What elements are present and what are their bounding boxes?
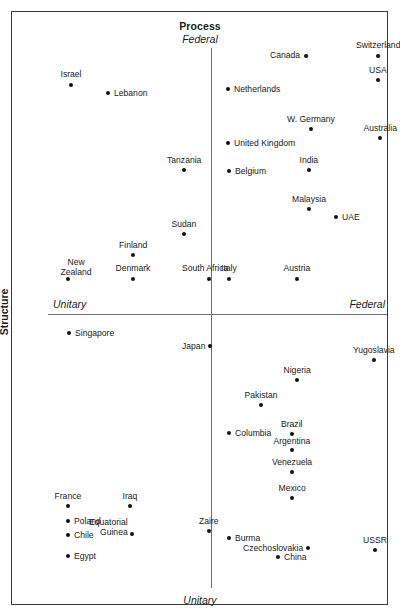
data-point-marker xyxy=(376,78,380,82)
data-point-label: Nigeria xyxy=(284,366,311,376)
data-point-label: Switzerland xyxy=(356,41,400,51)
data-point-label: Denmark xyxy=(116,264,151,274)
data-point-marker xyxy=(276,555,280,559)
data-point-marker xyxy=(304,54,308,58)
data-point-label: Argentina xyxy=(274,437,311,447)
data-point-marker xyxy=(295,277,299,281)
data-point-marker xyxy=(227,431,231,435)
structure-federal-label: Federal xyxy=(347,298,385,310)
data-point-marker xyxy=(227,536,231,540)
data-point-label: Egypt xyxy=(74,552,96,562)
data-point-label: India xyxy=(300,156,319,166)
structure-unitary-label: Unitary xyxy=(53,298,86,310)
data-point-label: Malaysia xyxy=(292,195,326,205)
data-point-marker xyxy=(290,470,294,474)
data-point-label: Iraq xyxy=(123,492,138,502)
data-point-marker xyxy=(69,83,73,87)
data-point-label: United Kingdom xyxy=(234,139,295,149)
data-point-marker xyxy=(378,136,382,140)
data-point-label: Canada xyxy=(270,51,300,61)
data-point-marker xyxy=(182,232,186,236)
data-point-marker xyxy=(207,277,211,281)
data-point-label: Sudan xyxy=(172,220,197,230)
data-point-marker xyxy=(290,448,294,452)
data-point-marker xyxy=(295,378,299,382)
data-point-marker xyxy=(376,54,380,58)
process-axis-title: Process xyxy=(0,20,400,32)
data-point-label: Italy xyxy=(221,264,237,274)
data-point-label: Netherlands xyxy=(234,85,280,95)
data-point-label: Yugoslavia xyxy=(353,346,395,356)
structure-axis-title: Structure xyxy=(0,272,10,352)
data-point-label: Japan xyxy=(182,342,205,352)
data-point-marker xyxy=(128,504,132,508)
data-point-marker xyxy=(307,207,311,211)
data-point-marker xyxy=(106,91,110,95)
data-point-label: UAE xyxy=(342,213,360,223)
data-point-marker xyxy=(66,554,70,558)
data-point-label: Pakistan xyxy=(245,391,278,401)
data-point-marker xyxy=(227,277,231,281)
data-point-marker xyxy=(182,168,186,172)
data-point-label: Mexico xyxy=(279,484,306,494)
data-point-label: W. Germany xyxy=(287,115,335,125)
data-point-marker xyxy=(259,403,263,407)
data-point-label: Lebanon xyxy=(114,89,147,99)
data-point-marker xyxy=(66,504,70,508)
data-point-label: Columbia xyxy=(235,429,271,439)
data-point-marker xyxy=(307,168,311,172)
data-point-marker xyxy=(66,519,70,523)
data-point-label: Austria xyxy=(284,264,311,274)
data-point-label: New Zealand xyxy=(61,258,92,277)
data-point-marker xyxy=(66,533,70,537)
data-point-marker xyxy=(66,277,70,281)
data-point-marker xyxy=(207,529,211,533)
process-federal-label: Federal xyxy=(0,33,400,45)
data-point-label: Tanzania xyxy=(167,156,201,166)
scatter-plot-figure: Process Federal Unitary Structure Unitar… xyxy=(0,0,400,616)
structure-axis-line xyxy=(48,314,387,315)
data-point-label: Equatorial Guinea xyxy=(89,518,128,537)
data-point-marker xyxy=(67,331,71,335)
data-point-marker xyxy=(309,127,313,131)
data-point-marker xyxy=(334,215,338,219)
data-point-marker xyxy=(306,546,310,550)
data-point-label: Australia xyxy=(364,124,397,134)
data-point-marker xyxy=(290,496,294,500)
data-point-marker xyxy=(226,87,230,91)
data-point-marker xyxy=(226,141,230,145)
data-point-label: Israel xyxy=(61,70,82,80)
data-point-label: Venezuela xyxy=(272,458,312,468)
data-point-label: Finland xyxy=(119,241,147,251)
data-point-label: Singapore xyxy=(75,329,114,339)
process-unitary-label: Unitary xyxy=(0,594,400,606)
data-point-marker xyxy=(373,548,377,552)
data-point-label: Belgium xyxy=(235,167,266,177)
process-axis-line xyxy=(211,48,212,588)
data-point-marker xyxy=(227,169,231,173)
data-point-label: USA xyxy=(369,66,387,76)
data-point-marker xyxy=(208,344,212,348)
data-point-label: France xyxy=(55,492,82,502)
data-point-marker xyxy=(372,358,376,362)
data-point-label: Brazil xyxy=(281,420,303,430)
data-point-label: Zaire xyxy=(199,517,219,527)
data-point-label: USSR xyxy=(363,536,387,546)
data-point-label: China xyxy=(284,553,306,563)
data-point-marker xyxy=(130,532,134,536)
data-point-marker xyxy=(131,253,135,257)
data-point-marker xyxy=(131,277,135,281)
